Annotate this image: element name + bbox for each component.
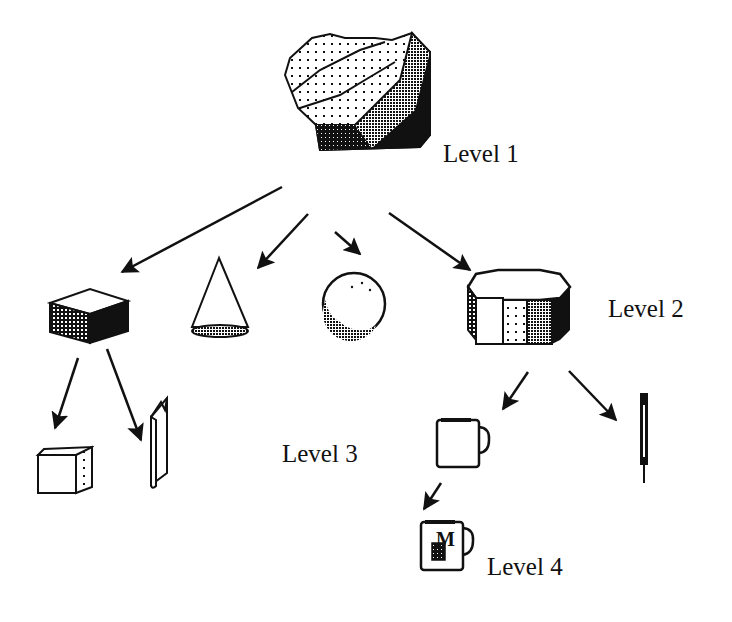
- arrow-to-sphere: [335, 232, 360, 254]
- pen-icon: [640, 393, 648, 483]
- octagonal-cylinder-icon: [468, 270, 570, 344]
- level2-arrows: [55, 349, 616, 440]
- hierarchy-diagram: M Level 1 Level 2 Level 3 Level 4: [0, 0, 732, 622]
- arrow-to-cylinder: [389, 213, 470, 270]
- level-2-label: Level 2: [608, 295, 684, 323]
- arrow-to-cone: [258, 214, 308, 268]
- level1-arrows: [122, 187, 470, 272]
- arrow-to-mug: [503, 372, 528, 409]
- arrow-to-cube: [55, 358, 78, 428]
- cube-icon: [38, 447, 92, 493]
- mug-icon: [437, 418, 489, 467]
- logo-mug-icon: M: [421, 520, 473, 570]
- level-3-label: Level 3: [282, 440, 358, 468]
- cone-icon: [192, 258, 248, 337]
- arrow-to-book: [107, 349, 141, 440]
- arrow-to-pen: [569, 371, 616, 420]
- book-icon: [151, 398, 167, 488]
- arrow-to-logo-mug: [424, 483, 441, 509]
- level-1-label: Level 1: [443, 140, 519, 168]
- arrow-to-box: [122, 187, 282, 272]
- box-icon: [50, 289, 128, 343]
- sphere-icon: [323, 273, 385, 341]
- level-4-label: Level 4: [487, 553, 563, 581]
- mug-logo-letter: M: [436, 528, 455, 550]
- faceted-mass-icon: [285, 33, 430, 150]
